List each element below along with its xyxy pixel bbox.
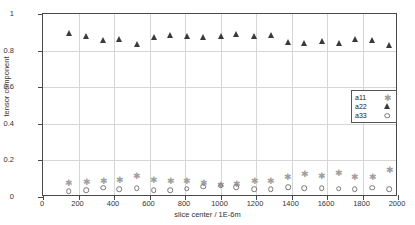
gridline-vertical bbox=[150, 14, 151, 195]
x-axis-tick-label: 1600 bbox=[318, 199, 335, 208]
y-axis-tick-label: 0.2 bbox=[4, 155, 14, 164]
data-point-a22 bbox=[167, 32, 173, 38]
data-point-a11: ✱ bbox=[386, 166, 393, 173]
data-point-a22 bbox=[83, 33, 89, 39]
gridline-horizontal bbox=[43, 160, 396, 161]
data-point-a33 bbox=[369, 185, 375, 191]
x-axis-tick-label: 200 bbox=[71, 199, 84, 208]
gridline-horizontal bbox=[43, 51, 396, 52]
data-point-a22 bbox=[66, 30, 72, 36]
data-point-a22 bbox=[233, 31, 239, 37]
data-point-a22 bbox=[200, 34, 206, 40]
circle-icon bbox=[381, 111, 393, 120]
data-point-a22 bbox=[285, 39, 291, 45]
x-axis-tick-label: 1800 bbox=[353, 199, 370, 208]
data-point-a33 bbox=[285, 184, 291, 190]
y-axis-tick bbox=[38, 87, 43, 88]
plot-area: ✱✱✱✱✱✱✱✱✱✱✱✱✱✱✱✱✱✱✱✱ bbox=[42, 13, 397, 196]
data-point-a22 bbox=[301, 40, 307, 46]
x-axis-tick-label: 2000 bbox=[389, 199, 406, 208]
data-point-a33 bbox=[134, 186, 140, 192]
gridline-horizontal bbox=[43, 87, 396, 88]
data-point-a33 bbox=[168, 187, 174, 193]
data-point-a11: ✱ bbox=[351, 174, 358, 181]
gridline-vertical bbox=[221, 14, 222, 195]
x-axis-tick-label: 400 bbox=[107, 199, 120, 208]
data-point-a11: ✱ bbox=[284, 173, 291, 180]
data-point-a33 bbox=[386, 186, 392, 192]
y-axis-tick-label: 1 bbox=[10, 9, 14, 18]
x-axis-tick-label: 1200 bbox=[247, 199, 264, 208]
triangle-icon bbox=[381, 102, 393, 111]
legend-item-a11: a11 ✱ bbox=[355, 93, 393, 102]
gridline-vertical bbox=[292, 14, 293, 195]
data-point-a33 bbox=[319, 186, 325, 192]
data-point-a22 bbox=[386, 42, 392, 48]
data-point-a11: ✱ bbox=[318, 172, 325, 179]
data-point-a11: ✱ bbox=[150, 176, 157, 183]
data-point-a22 bbox=[134, 41, 140, 47]
data-point-a11: ✱ bbox=[167, 178, 174, 185]
data-point-a33 bbox=[251, 186, 257, 192]
data-point-a11: ✱ bbox=[65, 180, 72, 187]
data-point-a11: ✱ bbox=[100, 178, 107, 185]
data-point-a22 bbox=[319, 38, 325, 44]
x-axis-tick-label: 600 bbox=[142, 199, 155, 208]
data-point-a22 bbox=[116, 36, 122, 42]
data-point-a33 bbox=[268, 187, 274, 193]
star-icon: ✱ bbox=[381, 93, 393, 102]
y-axis-tick bbox=[38, 14, 43, 15]
x-axis-tick-label: 1400 bbox=[282, 199, 299, 208]
legend-label-a22: a22 bbox=[355, 102, 367, 111]
data-point-a11: ✱ bbox=[83, 178, 90, 185]
x-axis-tick-label: 800 bbox=[178, 199, 191, 208]
data-point-a22 bbox=[151, 34, 157, 40]
data-point-a11: ✱ bbox=[267, 177, 274, 184]
data-point-a33 bbox=[151, 187, 157, 193]
data-point-a33 bbox=[184, 186, 190, 192]
gridline-horizontal bbox=[43, 124, 396, 125]
data-point-a22 bbox=[184, 33, 190, 39]
data-point-a11: ✱ bbox=[133, 172, 140, 179]
gridline-vertical bbox=[114, 14, 115, 195]
data-point-a33 bbox=[336, 186, 342, 192]
legend-label-a33: a33 bbox=[355, 111, 367, 120]
y-axis-tick-label: 0.4 bbox=[4, 118, 14, 127]
data-point-a11: ✱ bbox=[183, 177, 190, 184]
data-point-a22 bbox=[218, 33, 224, 39]
data-point-a33 bbox=[352, 186, 358, 192]
y-axis-tick bbox=[38, 51, 43, 52]
data-point-a33 bbox=[83, 188, 89, 194]
gridline-vertical bbox=[327, 14, 328, 195]
data-point-a33 bbox=[200, 184, 206, 190]
x-axis-tick-label: 1000 bbox=[211, 199, 228, 208]
y-axis-tick-label: 0 bbox=[10, 192, 14, 201]
data-point-a11: ✱ bbox=[251, 177, 258, 184]
data-point-a22 bbox=[100, 37, 106, 43]
legend-label-a11: a11 bbox=[355, 93, 366, 102]
chart-figure: ✱✱✱✱✱✱✱✱✱✱✱✱✱✱✱✱✱✱✱✱ tensor component sl… bbox=[0, 0, 415, 225]
x-axis-title: slice center / 1E-6m bbox=[0, 210, 415, 219]
data-point-a33 bbox=[101, 185, 107, 191]
y-axis-tick bbox=[38, 124, 43, 125]
data-point-a33 bbox=[117, 186, 123, 192]
data-point-a33 bbox=[234, 185, 240, 191]
y-axis-tick-label: 0.6 bbox=[4, 82, 14, 91]
data-point-a11: ✱ bbox=[335, 169, 342, 176]
gridline-vertical bbox=[256, 14, 257, 195]
data-point-a11: ✱ bbox=[369, 173, 376, 180]
data-point-a22 bbox=[369, 37, 375, 43]
x-axis-tick-label: 0 bbox=[40, 199, 44, 208]
data-point-a11: ✱ bbox=[301, 171, 308, 178]
chart-legend: a11 ✱ a22 a33 bbox=[351, 90, 397, 123]
data-point-a22 bbox=[336, 40, 342, 46]
data-point-a11: ✱ bbox=[116, 176, 123, 183]
data-point-a33 bbox=[66, 189, 72, 195]
gridline-vertical bbox=[79, 14, 80, 195]
y-axis-tick bbox=[38, 160, 43, 161]
gridline-vertical bbox=[185, 14, 186, 195]
legend-item-a33: a33 bbox=[355, 111, 393, 120]
y-axis-tick-label: 0.8 bbox=[4, 45, 14, 54]
legend-item-a22: a22 bbox=[355, 102, 393, 111]
data-point-a22 bbox=[352, 36, 358, 42]
